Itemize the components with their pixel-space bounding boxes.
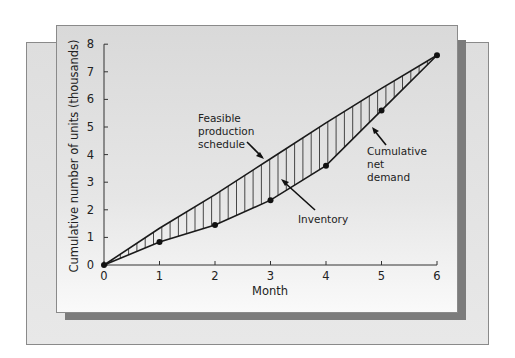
annotation-demand-line1: Cumulative	[367, 145, 427, 157]
demand-marker	[268, 197, 274, 203]
y-tick-label: 5	[87, 120, 94, 134]
demand-arrowhead-icon	[372, 127, 379, 134]
annotation-feasible-line2: production	[198, 125, 254, 137]
y-tick-label: 7	[87, 65, 94, 79]
demand-marker	[323, 163, 329, 169]
y-tick-label: 0	[87, 258, 94, 272]
demand-marker	[157, 239, 163, 245]
x-tick-label: 3	[267, 269, 274, 283]
x-tick-label: 1	[156, 269, 163, 283]
x-tick-label: 5	[378, 269, 385, 283]
y-tick-labels: 012345678	[87, 37, 94, 272]
x-tick-labels: 0123456	[100, 269, 440, 283]
x-tick-label: 6	[433, 269, 440, 283]
annotation-demand-line3: demand	[367, 171, 410, 183]
y-tick-label: 1	[87, 230, 94, 244]
chart-svg: 0123456 012345678 Month Cumulative numbe…	[0, 0, 515, 358]
x-axis-label: Month	[252, 284, 288, 298]
demand-marker	[101, 262, 107, 268]
x-tick-label: 4	[322, 269, 329, 283]
y-tick-label: 4	[87, 148, 94, 162]
annotation-demand-line2: net	[367, 158, 384, 170]
demand-marker	[379, 107, 385, 113]
y-tick-label: 2	[87, 203, 94, 217]
y-tick-label: 3	[87, 175, 94, 189]
inventory-arrow	[284, 182, 315, 210]
annotation-feasible-line1: Feasible	[198, 112, 241, 124]
annotation-inventory: Inventory	[298, 213, 348, 225]
x-tick-label: 2	[211, 269, 218, 283]
demand-marker	[212, 222, 218, 228]
y-axis-label: Cumulative number of units (thousands)	[67, 39, 81, 272]
demand-marker	[434, 52, 440, 58]
y-tick-label: 8	[87, 37, 94, 51]
x-tick-label: 0	[100, 269, 107, 283]
annotation-feasible-line3: schedule	[198, 138, 245, 150]
y-tick-label: 6	[87, 92, 94, 106]
